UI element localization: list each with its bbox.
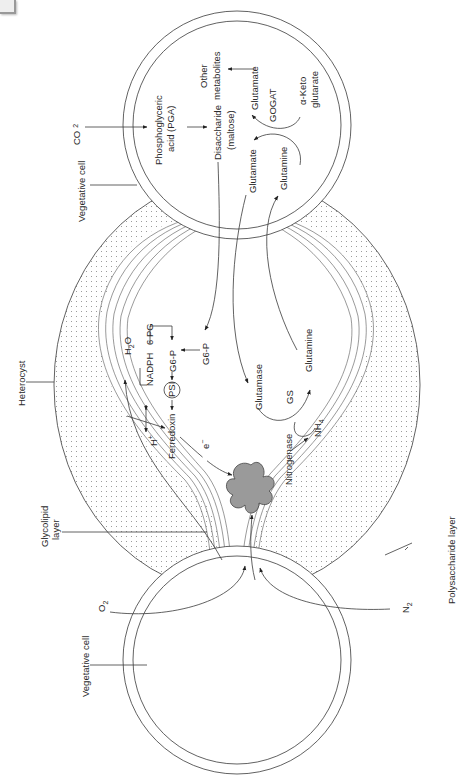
label-o2: O2	[96, 601, 109, 612]
label-glutamine-bottom: Glutamine	[303, 329, 314, 372]
label-n2: N2	[400, 602, 413, 613]
label-disaccharide-1: Disaccharide	[212, 105, 223, 160]
heterocyst-diagram: Phosphoglyceric acid (PGA) Disaccharide …	[0, 0, 474, 779]
label-glycolipid-2: layer	[50, 519, 61, 540]
label-gs: GS	[284, 390, 295, 404]
label-pga-1: Phosphoglyceric	[153, 95, 164, 165]
label-glutamase: Glutamase	[253, 364, 264, 410]
vegetative-cell-bottom	[123, 546, 351, 774]
label-heterocyst: Heterocyst	[16, 360, 27, 406]
label-keto-2: glutarate	[309, 71, 320, 108]
label-other-1: Other	[198, 64, 209, 88]
label-glutamate-mid: Glutamate	[247, 149, 258, 193]
label-psi: PSI	[166, 382, 177, 397]
label-6pg: 6 PG	[144, 323, 155, 345]
label-ferredoxin: Ferredoxin	[166, 414, 177, 459]
label-glutamate-top: Glutamate	[249, 66, 260, 110]
label-other-2: metabolites	[211, 51, 222, 100]
label-nadph: NADPH	[144, 353, 155, 386]
label-vegetative-cell-top: Vegetative cell	[76, 161, 87, 222]
label-keto-1: α-Keto	[297, 77, 308, 105]
label-glutamine-top: Glutamine	[278, 147, 289, 190]
label-co2: CO2	[71, 124, 82, 145]
label-g6p-inner: G6-P	[167, 350, 178, 372]
label-glycolipid-1: Glycolipid	[39, 506, 50, 547]
label-vegetative-cell-bottom: Vegetative cell	[80, 636, 91, 697]
label-g6p-outer: G6-P	[200, 343, 211, 365]
label-polysaccharide: Polysaccharide layer	[446, 516, 457, 604]
label-nitrogenase: Nitrogenase	[283, 434, 294, 485]
label-disaccharide-2: (maltose)	[225, 110, 236, 150]
label-pga-2: acid (PGA)	[165, 106, 176, 152]
label-gogat: GOGAT	[267, 88, 278, 122]
